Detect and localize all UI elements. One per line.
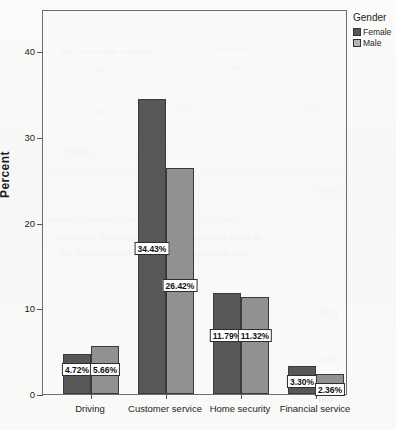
bar-home-security-female <box>213 293 241 394</box>
bar-home-security-male <box>241 297 269 394</box>
legend-item-male[interactable]: Male <box>353 38 396 48</box>
y-tick-mark-10 <box>37 309 43 310</box>
y-tick-label-40: 40 <box>24 46 35 57</box>
x-tick-mark-home-security <box>241 394 242 399</box>
data-label-driving-female: 4.72% <box>62 363 92 376</box>
data-label-customer-service-female: 34.43% <box>135 242 170 255</box>
x-axis-label-customer-service: Customer service <box>128 403 202 414</box>
y-tick-mark-40 <box>37 52 43 53</box>
y-tick-mark-0 <box>37 395 43 396</box>
x-axis-label-driving: Driving <box>75 403 105 414</box>
legend-label-male: Male <box>363 38 381 48</box>
data-label-financial-service-female: 3.30% <box>287 375 317 388</box>
legend-title: Gender <box>353 12 396 23</box>
y-tick-label-30: 30 <box>24 132 35 143</box>
legend-swatch-female-icon <box>353 28 361 36</box>
y-tick-mark-20 <box>37 224 43 225</box>
x-tick-mark-driving <box>91 394 92 399</box>
chart-legend: Gender Female Male <box>353 12 396 49</box>
legend-label-female: Female <box>363 27 391 37</box>
data-label-customer-service-male: 26.42% <box>163 279 198 292</box>
data-label-financial-service-male: 2.36% <box>315 383 345 396</box>
x-tick-mark-customer-service <box>166 394 167 399</box>
chart-plot-frame: 40 30 20 10 0 4.72% 5.66% 34.43% 26.42% <box>42 10 347 395</box>
y-tick-label-10: 10 <box>24 303 35 314</box>
y-tick-label-0: 0 <box>30 389 35 400</box>
y-axis-title: Percent <box>0 151 12 198</box>
y-tick-label-20: 20 <box>24 218 35 229</box>
x-axis-label-home-security: Home security <box>210 403 271 414</box>
legend-item-female[interactable]: Female <box>353 27 396 37</box>
legend-swatch-male-icon <box>353 39 361 47</box>
data-label-home-security-male: 11.32% <box>238 329 272 342</box>
data-label-driving-male: 5.66% <box>90 363 120 376</box>
y-tick-mark-30 <box>37 138 43 139</box>
x-axis-label-financial-service: Financial service <box>280 403 351 414</box>
plot-area: 40 30 20 10 0 4.72% 5.66% 34.43% 26.42% <box>43 11 346 394</box>
